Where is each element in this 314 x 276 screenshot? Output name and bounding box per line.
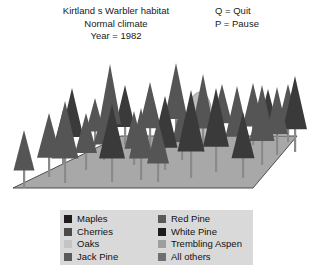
legend-swatch-icon [158, 253, 166, 261]
legend-swatch-icon [158, 228, 166, 236]
conifer-crown [14, 130, 35, 171]
shortcut-quit: Q = Quit [215, 5, 259, 18]
legend-swatch-icon [64, 215, 72, 223]
page-title: Kirtland s Warbler habitat Normal climat… [36, 5, 196, 43]
legend-column-right: Red PineWhite PineTrembling AspenAll oth… [158, 213, 242, 263]
legend-item-label: Red Pine [171, 214, 210, 224]
legend-item-label: Oaks [77, 239, 99, 249]
species-legend: MaplesCherriesOaksJack Pine Red PineWhit… [60, 210, 253, 265]
legend-item: Red Pine [158, 213, 242, 226]
keyboard-shortcuts: Q = Quit P = Pause [215, 5, 259, 30]
legend-item-label: All others [171, 252, 211, 262]
legend-item: Trembling Aspen [158, 238, 242, 251]
legend-item-label: Maples [77, 214, 108, 224]
legend-item-label: White Pine [171, 227, 217, 237]
legend-swatch-icon [158, 215, 166, 223]
forest-scene-3d [0, 50, 314, 200]
shortcut-pause: P = Pause [215, 18, 259, 31]
forest-simulation-window: Kirtland s Warbler habitat Normal climat… [0, 0, 314, 276]
title-line-habitat: Kirtland s Warbler habitat [36, 5, 196, 18]
legend-item: Oaks [64, 238, 118, 251]
title-line-year: Year = 1982 [36, 30, 196, 43]
legend-item: Cherries [64, 226, 118, 239]
legend-swatch-icon [158, 240, 166, 248]
title-line-climate: Normal climate [36, 18, 196, 31]
legend-item-label: Jack Pine [77, 252, 118, 262]
legend-swatch-icon [64, 228, 72, 236]
legend-column-left: MaplesCherriesOaksJack Pine [64, 213, 118, 263]
legend-item-label: Trembling Aspen [171, 239, 242, 249]
legend-swatch-icon [64, 253, 72, 261]
legend-item: Jack Pine [64, 251, 118, 264]
legend-swatch-icon [64, 240, 72, 248]
legend-item: White Pine [158, 226, 242, 239]
legend-item-label: Cherries [77, 227, 113, 237]
legend-item: All others [158, 251, 242, 264]
legend-item: Maples [64, 213, 118, 226]
